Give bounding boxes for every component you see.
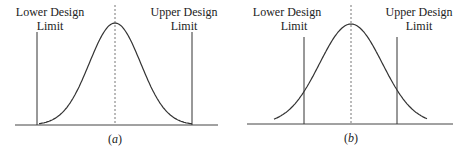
panel-b-upper-limit-label-line2: Limit: [406, 19, 433, 33]
panel-a-upper-limit-label-line2: Limit: [171, 19, 198, 33]
panel-a-upper-limit-label-line1: Upper Design: [151, 5, 218, 19]
panel-a-lower-limit-label-line2: Limit: [37, 19, 64, 33]
panel-a-caption: (a): [108, 132, 122, 146]
panel-b-lower-limit-label-line2: Limit: [281, 19, 308, 33]
design-limits-figure: Lower Design Limit Upper Design Limit (a…: [0, 0, 467, 153]
panel-b-caption: (b): [344, 131, 358, 145]
panel-b-upper-limit-label-line1: Upper Design: [386, 5, 453, 19]
panel-b-lower-limit-label-line1: Lower Design: [253, 5, 321, 19]
panel-a-lower-limit-label-line1: Lower Design: [16, 5, 84, 19]
panel-a: Lower Design Limit Upper Design Limit (a…: [15, 5, 218, 146]
panel-b: Lower Design Limit Upper Design Limit (b…: [247, 5, 453, 145]
